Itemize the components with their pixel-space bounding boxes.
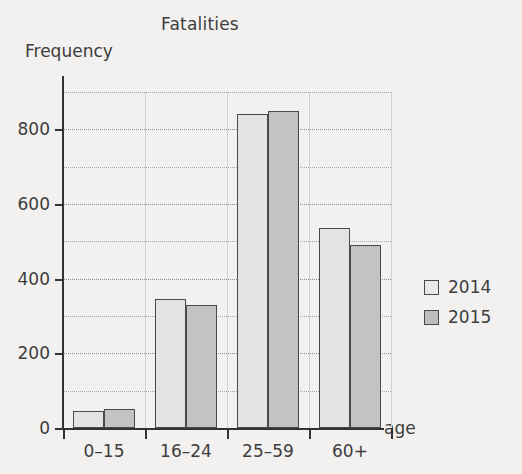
x-tick xyxy=(63,428,65,439)
x-tick-label-60+: 60+ xyxy=(332,441,368,461)
y-tick xyxy=(55,353,64,355)
x-axis-line xyxy=(62,428,384,430)
y-axis-label: Frequency xyxy=(25,41,113,61)
x-tick xyxy=(309,428,311,439)
legend-swatch-icon xyxy=(424,310,439,325)
x-tick-label-16–24: 16–24 xyxy=(160,441,212,461)
x-tick xyxy=(227,428,229,439)
chart-title: Fatalities xyxy=(0,14,400,34)
legend: 20142015 xyxy=(424,272,491,332)
y-tick-label: 0 xyxy=(2,418,50,438)
bar-2015-25–59 xyxy=(268,111,299,428)
y-tick xyxy=(55,204,64,206)
legend-label: 2014 xyxy=(448,277,491,297)
y-tick-label: 600 xyxy=(2,194,50,214)
y-tick xyxy=(55,279,64,281)
bar-2015-16–24 xyxy=(186,305,217,428)
bar-2014-25–59 xyxy=(237,114,268,428)
gridline-vertical xyxy=(391,92,392,428)
legend-item-2015[interactable]: 2015 xyxy=(424,302,491,332)
x-tick-label-0–15: 0–15 xyxy=(84,441,125,461)
y-tick-label: 400 xyxy=(2,269,50,289)
legend-item-2014[interactable]: 2014 xyxy=(424,272,491,302)
legend-label: 2015 xyxy=(448,307,491,327)
bar-chart: Fatalities Frequency age 0200400600800 0… xyxy=(0,0,522,474)
bar-2014-0–15 xyxy=(73,411,104,428)
gridline-vertical xyxy=(227,92,228,428)
y-tick-label: 800 xyxy=(2,119,50,139)
gridline-vertical xyxy=(145,92,146,428)
gridline-vertical xyxy=(309,92,310,428)
y-tick xyxy=(55,129,64,131)
bar-2015-60+ xyxy=(350,245,381,428)
legend-swatch-icon xyxy=(424,280,439,295)
bar-2014-16–24 xyxy=(155,299,186,428)
bar-2014-60+ xyxy=(319,228,350,428)
bar-2015-0–15 xyxy=(104,409,135,428)
x-tick xyxy=(391,428,393,439)
plot-area xyxy=(63,92,391,428)
y-tick-label: 200 xyxy=(2,343,50,363)
x-tick-label-25–59: 25–59 xyxy=(242,441,294,461)
x-tick xyxy=(145,428,147,439)
